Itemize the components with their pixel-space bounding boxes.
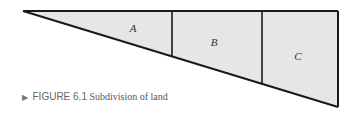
- caption-marker-icon: ▶: [22, 93, 28, 102]
- parcel-c-label: C: [294, 50, 302, 62]
- parcel-b-label: B: [211, 36, 218, 48]
- figure-number: FIGURE 6.1: [33, 91, 87, 102]
- caption-text: Subdivision of land: [89, 91, 167, 102]
- figure-caption: ▶ FIGURE 6.1 Subdivision of land: [22, 91, 168, 102]
- parcel-a-label: A: [129, 22, 137, 34]
